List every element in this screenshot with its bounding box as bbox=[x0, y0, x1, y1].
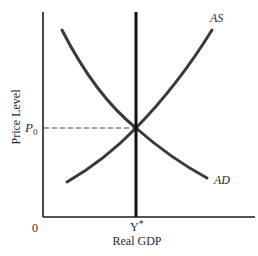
ad-label: AD bbox=[213, 173, 230, 187]
as-label: AS bbox=[209, 11, 223, 25]
y-star-label: Y* bbox=[130, 218, 144, 234]
y-axis-label: Price Level bbox=[9, 89, 23, 145]
ad-as-diagram: AS AD P0 0 Y* Real GDP Price Level bbox=[0, 0, 258, 256]
as-curve bbox=[67, 30, 212, 182]
origin-label: 0 bbox=[32, 221, 38, 235]
x-axis-label: Real GDP bbox=[113, 234, 162, 248]
p0-label: P0 bbox=[24, 120, 38, 137]
